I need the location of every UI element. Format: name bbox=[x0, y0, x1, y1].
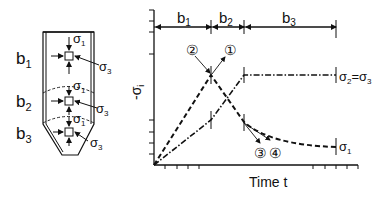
zone-b1-label: b1 bbox=[16, 49, 32, 70]
marker-4: ④ bbox=[269, 145, 282, 161]
sigma3-label-zone3: σ3 bbox=[90, 135, 103, 152]
sigma2-eq-sigma3-label: σ2=σ3 bbox=[339, 69, 372, 86]
marker-3: ③ bbox=[254, 145, 267, 161]
phase-crosses bbox=[211, 66, 336, 155]
marker-2: ② bbox=[186, 42, 199, 58]
sigma3-label-zone2: σ3 bbox=[96, 101, 109, 118]
y-axis-label: -σi bbox=[128, 85, 146, 100]
sigma1-label-zone3: σ1 bbox=[73, 111, 86, 128]
sigma3-label-zone1: σ3 bbox=[99, 59, 112, 76]
sigma2-sigma3-curve bbox=[154, 75, 336, 165]
sigma1-curve-label: σ1 bbox=[339, 139, 352, 156]
marker-1: ① bbox=[224, 42, 237, 58]
marker-arrows bbox=[195, 56, 270, 143]
phase-b2-label: b2 bbox=[219, 9, 233, 28]
x-axis-label: Time t bbox=[249, 174, 287, 190]
sigma1-label-zone2: σ1 bbox=[73, 78, 86, 95]
sigma1-label-zone1: σ1 bbox=[73, 31, 86, 48]
sigma1-curve bbox=[154, 75, 336, 165]
zone-labels: b1 b2 b3 σ1 σ3 σ1 σ3 σ1 σ3 bbox=[16, 31, 112, 152]
zone-b2-label: b2 bbox=[16, 92, 32, 113]
phase-b1-label: b1 bbox=[177, 9, 191, 28]
silo-stress-diagram: b1 b2 b3 σ1 σ3 σ1 σ3 σ1 σ3 bbox=[0, 0, 382, 197]
phase-b3-label: b3 bbox=[282, 9, 296, 28]
zone-b3-label: b3 bbox=[16, 124, 32, 145]
